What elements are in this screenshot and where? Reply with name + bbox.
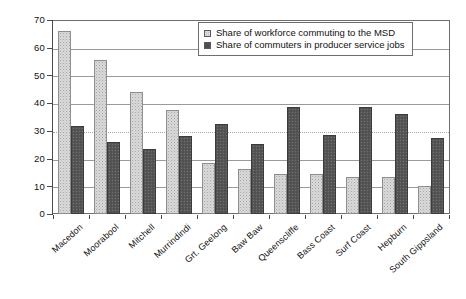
y-tick-mark-70 [47,20,52,21]
bar [107,142,120,214]
x-tick-mark [125,215,126,219]
y-tick-mark-60 [47,48,52,49]
bar [395,114,408,214]
bar-group [89,21,125,214]
y-tick-label-10: 10 [4,182,45,192]
x-tick-mark [449,215,450,219]
bar [418,186,431,214]
legend-swatch-dark-icon [204,42,211,49]
x-axis-label: Mitchell [127,222,157,250]
bar [143,149,156,214]
y-tick-mark-40 [47,103,52,104]
x-axis-label: Surf Coast [334,222,373,259]
x-tick-mark [413,215,414,219]
x-axis-label: Murrindindi [152,222,193,260]
x-axis-label: Moorabool [82,222,121,258]
y-tick-mark-50 [47,75,52,76]
legend-item-producer-service: Share of commuters in producer service j… [204,39,405,51]
x-axis-label: South Gippsland [387,222,444,275]
y-tick-mark-10 [47,186,52,187]
bar-group [125,21,161,214]
legend-label-producer-service: Share of commuters in producer service j… [216,39,405,51]
x-tick-mark [53,215,54,219]
y-tick-label-70: 70 [4,15,45,25]
x-tick-mark [197,215,198,219]
y-tick-mark-30 [47,131,52,132]
x-axis-label: Grt. Geelong [183,222,229,265]
bar [382,177,395,214]
x-tick-mark [305,215,306,219]
legend-label-workforce-commuting: Share of workforce commuting to the MSD [216,27,395,39]
y-tick-label-20: 20 [4,154,45,164]
legend: Share of workforce commuting to the MSD … [198,22,413,56]
x-axis-label: Hepburn [376,222,409,253]
bar [274,174,287,214]
bar-group [53,21,89,214]
bar [287,107,300,214]
x-tick-mark [233,215,234,219]
x-axis-label: Queenscliffe [256,222,301,264]
x-tick-mark [377,215,378,219]
x-tick-mark [89,215,90,219]
bar [431,138,444,214]
y-tick-mark-0 [47,214,52,215]
bar [179,136,192,214]
y-tick-label-40: 40 [4,98,45,108]
x-tick-mark [161,215,162,219]
x-axis-label: Macedon [50,222,85,255]
bar [71,126,84,214]
legend-swatch-light-icon [204,30,211,37]
x-axis-label: Bass Coast [295,222,337,261]
bar [58,31,71,214]
y-tick-label-30: 30 [4,126,45,136]
bar [359,107,372,214]
bar [323,135,336,214]
bar [346,177,359,214]
y-tick-mark-20 [47,159,52,160]
bar-group [413,21,449,214]
bar [310,174,323,214]
bar [94,60,107,214]
bar [166,110,179,214]
bar [130,92,143,214]
y-tick-label-50: 50 [4,71,45,81]
bar [251,144,264,214]
bar [202,163,215,214]
y-tick-label-60: 60 [4,43,45,53]
y-tick-label-0: 0 [4,209,45,219]
bar-group [161,21,197,214]
bar-chart: 70 60 50 40 30 20 10 0 MacedonMooraboolM… [0,0,466,299]
x-tick-mark [269,215,270,219]
x-tick-mark [341,215,342,219]
bar [215,124,228,214]
bar [238,169,251,214]
legend-item-workforce-commuting: Share of workforce commuting to the MSD [204,27,405,39]
x-axis-label: Baw Baw [230,222,265,255]
